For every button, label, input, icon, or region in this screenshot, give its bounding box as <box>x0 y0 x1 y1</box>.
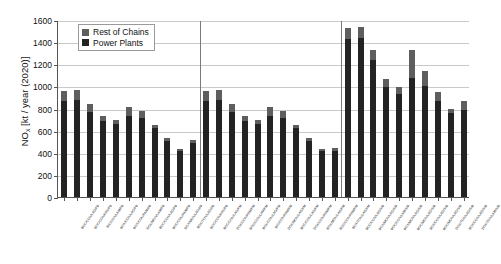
bar <box>461 101 467 197</box>
bar-segment-power-plants <box>216 100 222 197</box>
bar-segment-rest-of-chains <box>370 50 376 60</box>
y-tick-mark <box>54 65 58 66</box>
x-tick-mark <box>77 197 78 201</box>
bar-segment-power-plants <box>242 121 248 197</box>
bar-segment-rest-of-chains <box>87 104 93 112</box>
x-tick-mark <box>270 197 271 201</box>
y-tick-mark <box>54 154 58 155</box>
x-tick-mark <box>361 197 362 201</box>
x-tick-mark <box>258 197 259 201</box>
x-tick-mark <box>206 197 207 201</box>
chart-legend: Rest of Chains Power Plants <box>78 24 155 51</box>
x-tick-mark <box>322 197 323 201</box>
bar <box>306 138 312 197</box>
bar <box>435 92 441 197</box>
bar <box>152 125 158 197</box>
bar-segment-power-plants <box>306 141 312 197</box>
x-tick-mark <box>155 197 156 201</box>
bar <box>332 148 338 197</box>
bar <box>267 107 273 197</box>
bar <box>255 120 261 197</box>
bar-segment-power-plants <box>164 141 170 197</box>
x-tick-mark <box>142 197 143 201</box>
bar <box>280 111 286 197</box>
bar-segment-rest-of-chains <box>229 104 235 112</box>
bar-segment-power-plants <box>332 151 338 197</box>
bar <box>74 90 80 197</box>
gridline <box>58 132 469 133</box>
bar-segment-power-plants <box>203 101 209 197</box>
legend-label-rest-of-chains: Rest of Chains <box>93 27 149 38</box>
bar-segment-rest-of-chains <box>409 50 415 78</box>
bar-segment-power-plants <box>396 94 402 197</box>
bar-segment-power-plants <box>100 121 106 197</box>
bar <box>216 90 222 197</box>
x-tick-mark <box>399 197 400 201</box>
gridline <box>58 65 469 66</box>
gridline <box>58 21 469 22</box>
y-tick-label: 1200 <box>33 60 52 70</box>
bar-segment-power-plants <box>319 151 325 197</box>
x-tick-mark <box>116 197 117 201</box>
bar <box>370 50 376 197</box>
bar-segment-rest-of-chains <box>203 91 209 101</box>
legend-swatch-rest-of-chains <box>82 29 89 36</box>
bar-segment-power-plants <box>448 113 454 197</box>
bar-segment-power-plants <box>177 151 183 197</box>
bar <box>87 104 93 197</box>
bar <box>164 138 170 197</box>
x-tick-mark <box>103 197 104 201</box>
bar-segment-power-plants <box>370 60 376 197</box>
bar <box>242 116 248 197</box>
bar <box>383 79 389 197</box>
bar-segment-rest-of-chains <box>126 107 132 116</box>
bar-segment-power-plants <box>229 112 235 197</box>
bar <box>139 111 145 197</box>
bar <box>113 120 119 197</box>
y-tick-mark <box>54 43 58 44</box>
bar-segment-power-plants <box>461 110 467 197</box>
bar-segment-power-plants <box>409 78 415 197</box>
x-tick-mark <box>232 197 233 201</box>
bar <box>100 116 106 197</box>
bar-segment-power-plants <box>190 143 196 197</box>
y-tick-label: 200 <box>38 171 52 181</box>
y-axis-title: NOx [kt / year (2020)] <box>19 32 30 172</box>
y-tick-label: 1000 <box>33 82 52 92</box>
x-tick-mark <box>167 197 168 201</box>
y-tick-mark <box>54 176 58 177</box>
x-tick-mark <box>348 197 349 201</box>
bar-segment-rest-of-chains <box>74 90 80 99</box>
x-tick-mark <box>309 197 310 201</box>
bar-segment-rest-of-chains <box>61 91 67 101</box>
y-axis-title-main: NO <box>19 132 30 146</box>
x-tick-mark <box>425 197 426 201</box>
bar-segment-rest-of-chains <box>267 107 273 116</box>
gridline <box>58 176 469 177</box>
bar <box>61 91 67 197</box>
y-tick-label: 0 <box>47 193 52 203</box>
x-tick-mark <box>180 197 181 201</box>
x-tick-mark <box>90 197 91 201</box>
legend-entry-rest-of-chains: Rest of Chains <box>82 27 149 38</box>
legend-entry-power-plants: Power Plants <box>82 38 149 49</box>
bar-segment-power-plants <box>422 86 428 197</box>
bar <box>358 27 364 197</box>
y-tick-mark <box>54 21 58 22</box>
legend-swatch-power-plants <box>82 39 89 46</box>
bar-segment-rest-of-chains <box>358 27 364 38</box>
y-tick-label: 800 <box>38 105 52 115</box>
gridline <box>58 154 469 155</box>
y-tick-mark <box>54 110 58 111</box>
bar <box>177 149 183 197</box>
bar-segment-rest-of-chains <box>139 111 145 118</box>
gridline <box>58 87 469 88</box>
bar-segment-power-plants <box>152 128 158 197</box>
x-tick-mark <box>451 197 452 201</box>
bar-segment-power-plants <box>126 116 132 197</box>
x-tick-mark <box>386 197 387 201</box>
y-tick-label: 1400 <box>33 38 52 48</box>
bar-segment-rest-of-chains <box>396 87 402 94</box>
bar-segment-power-plants <box>113 124 119 197</box>
